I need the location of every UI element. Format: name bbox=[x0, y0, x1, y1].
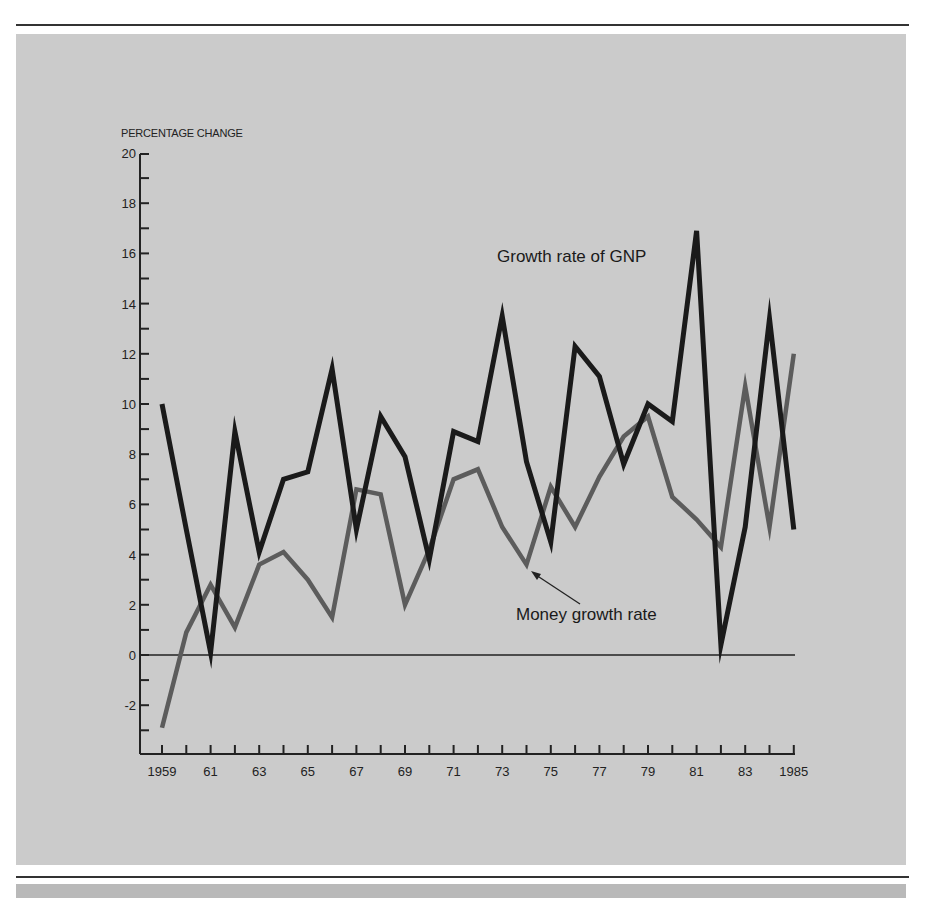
y-tick-label: 10 bbox=[122, 397, 136, 412]
y-tick-label: -2 bbox=[124, 698, 136, 713]
x-tick-label: 73 bbox=[495, 764, 509, 779]
money-series-label: Money growth rate bbox=[516, 605, 657, 624]
x-tick-label: 77 bbox=[592, 764, 606, 779]
x-tick-label: 79 bbox=[641, 764, 655, 779]
series-lines bbox=[162, 231, 794, 728]
y-tick-label: 6 bbox=[129, 497, 136, 512]
y-tick-label: 16 bbox=[122, 246, 136, 261]
x-tick-label: 75 bbox=[544, 764, 558, 779]
x-tick-label: 67 bbox=[349, 764, 363, 779]
gnp-series-label: Growth rate of GNP bbox=[497, 247, 646, 266]
x-tick-label: 61 bbox=[203, 764, 217, 779]
y-tick-label: 8 bbox=[129, 447, 136, 462]
x-tick-label: 69 bbox=[398, 764, 412, 779]
y-tick-label: 0 bbox=[129, 648, 136, 663]
arrowhead-icon bbox=[531, 571, 541, 580]
y-tick-label: 18 bbox=[122, 196, 136, 211]
y-tick-label: 14 bbox=[122, 297, 136, 312]
line-chart: -202468101214161820195961636567697173757… bbox=[0, 0, 926, 898]
x-tick-label: 1959 bbox=[148, 764, 177, 779]
annotation-arrow bbox=[536, 575, 580, 604]
x-tick-label: 83 bbox=[738, 764, 752, 779]
annotations: PERCENTAGE CHANGE Growth rate of GNP Mon… bbox=[121, 127, 657, 624]
y-tick-label: 12 bbox=[122, 347, 136, 362]
x-tick-label: 71 bbox=[446, 764, 460, 779]
x-tick-label: 1985 bbox=[779, 764, 808, 779]
y-tick-label: 2 bbox=[129, 598, 136, 613]
y-tick-label: 4 bbox=[129, 548, 136, 563]
gnp-growth-line bbox=[162, 231, 794, 653]
x-tick-label: 81 bbox=[689, 764, 703, 779]
x-tick-label: 65 bbox=[301, 764, 315, 779]
y-tick-label: 20 bbox=[122, 146, 136, 161]
axes: -202468101214161820195961636567697173757… bbox=[122, 146, 809, 779]
x-tick-label: 63 bbox=[252, 764, 266, 779]
y-axis-title: PERCENTAGE CHANGE bbox=[121, 127, 243, 139]
